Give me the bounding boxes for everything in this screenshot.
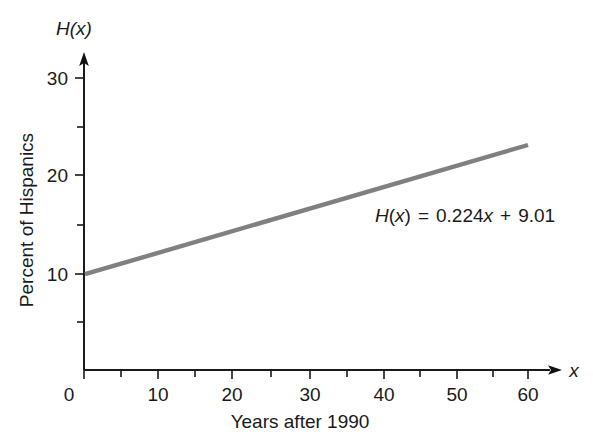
y-axis-group: 30 20 10 xyxy=(47,52,89,370)
equation-intercept: 9.01 xyxy=(518,205,555,226)
x-tick-label-50: 50 xyxy=(446,384,467,405)
y-tick-label-10: 10 xyxy=(47,264,68,285)
y-axis-caption: Percent of Hispanics xyxy=(16,133,37,307)
x-axis-group: 0 10 20 30 40 50 60 xyxy=(64,365,562,405)
equation-slope: 0.224 xyxy=(436,205,484,226)
y-axis-function-label: H(x) xyxy=(56,18,92,39)
x-axis-variable-label: x xyxy=(568,360,580,381)
equation-paren-close: ) xyxy=(405,205,411,226)
equation-func: H xyxy=(375,205,389,226)
equation-annotation: H(x)=0.224x+9.01 xyxy=(375,205,555,226)
x-tick-label-40: 40 xyxy=(373,384,394,405)
equation-slope-var: x xyxy=(483,205,495,226)
y-tick-label-30: 30 xyxy=(47,68,68,89)
equation-equals: = xyxy=(418,205,429,226)
x-tick-label-0: 0 xyxy=(64,384,75,405)
x-tick-label-30: 30 xyxy=(299,384,320,405)
x-tick-label-10: 10 xyxy=(147,384,168,405)
y-tick-label-20: 20 xyxy=(47,165,68,186)
x-tick-label-20: 20 xyxy=(221,384,242,405)
equation-plus: + xyxy=(500,205,511,226)
chart-figure: 30 20 10 0 10 20 30 4 xyxy=(0,0,593,447)
x-axis-caption: Years after 1990 xyxy=(231,411,370,432)
x-axis-arrow-icon xyxy=(548,365,562,375)
x-tick-label-60: 60 xyxy=(517,384,538,405)
chart-plot-area: 30 20 10 0 10 20 30 4 xyxy=(0,0,593,447)
